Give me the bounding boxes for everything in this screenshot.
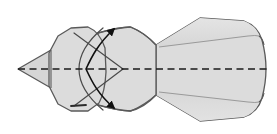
origami-fold-diagram [0,0,277,134]
edge-tick-mark [71,105,86,106]
figure-root: Line drawing of a folded paper form with… [0,0,277,134]
